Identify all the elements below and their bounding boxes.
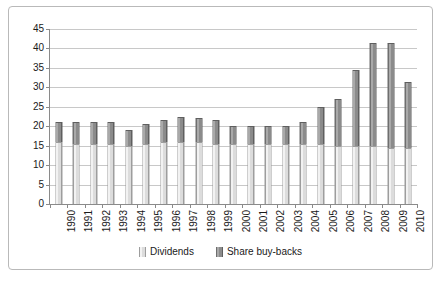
stacked-bar[interactable] [300,122,307,204]
bar-slot [155,29,172,204]
y-tick-label: 0 [38,199,44,209]
x-tick-mark [155,204,156,208]
bar-segment-dividends[interactable] [387,148,394,204]
bar-segment-share-buybacks[interactable] [282,126,289,144]
x-tick-label: 2004 [311,210,321,232]
bar-segment-dividends[interactable] [143,144,150,204]
bar-slot [85,29,102,204]
stacked-bar[interactable] [317,107,324,204]
stacked-bar[interactable] [247,126,254,204]
chart-frame: 051015202530354045 199019911992199319941… [8,6,433,270]
x-tick-label: 1992 [102,210,112,232]
x-tick-mark [137,204,138,208]
stacked-bar[interactable] [213,120,220,204]
bar-segment-share-buybacks[interactable] [55,122,62,141]
bar-segment-share-buybacks[interactable] [178,117,185,142]
bar-segment-share-buybacks[interactable] [143,124,150,143]
stacked-bar[interactable] [265,126,272,204]
x-tick-label: 2010 [416,210,426,232]
x-tick-mark [85,204,86,208]
bar-segment-dividends[interactable] [247,144,254,204]
x-tick-label: 1990 [67,210,77,232]
stacked-bar[interactable] [370,43,377,204]
bar-segment-dividends[interactable] [405,148,412,204]
stacked-bar[interactable] [143,124,150,204]
x-tick-label: 2001 [259,210,269,232]
stacked-bar[interactable] [90,122,97,204]
x-tick-label: 2002 [276,210,286,232]
bar-segment-dividends[interactable] [370,146,377,204]
x-tick-mark [242,204,243,208]
stacked-bar[interactable] [55,122,62,204]
legend-label: Share buy-backs [227,247,302,257]
stacked-bar[interactable] [352,70,359,204]
stacked-bar[interactable] [108,122,115,204]
bar-slot [365,29,382,204]
bar-segment-dividends[interactable] [73,144,80,204]
bar-segment-share-buybacks[interactable] [247,126,254,144]
bar-segment-share-buybacks[interactable] [195,118,202,141]
x-tick-mark [382,204,383,208]
x-tick-label: 1991 [84,210,94,232]
bar-slot [102,29,119,204]
bar-segment-dividends[interactable] [317,144,324,204]
stacked-bar[interactable] [125,130,132,204]
x-tick-label: 1994 [137,210,147,232]
bar-segment-share-buybacks[interactable] [300,122,307,143]
bar-segment-share-buybacks[interactable] [317,107,324,144]
x-tick-label: 2009 [399,210,409,232]
bar-segment-share-buybacks[interactable] [73,122,80,143]
bar-segment-dividends[interactable] [125,146,132,204]
stacked-bar[interactable] [160,120,167,204]
stacked-bar[interactable] [387,43,394,204]
stacked-bar[interactable] [178,117,185,204]
bar-segment-share-buybacks[interactable] [387,43,394,148]
bar-slot [330,29,347,204]
bar-slot [207,29,224,204]
bar-segment-share-buybacks[interactable] [230,126,237,144]
y-tick-label: 35 [33,63,44,73]
bar-segment-share-buybacks[interactable] [160,120,167,141]
y-tick-label: 30 [33,82,44,92]
bar-segment-dividends[interactable] [300,144,307,204]
x-tick-mark [260,204,261,208]
bar-segment-share-buybacks[interactable] [90,122,97,143]
bar-segment-dividends[interactable] [195,142,202,204]
stacked-bar[interactable] [405,82,412,204]
bar-segment-dividends[interactable] [213,144,220,204]
bar-segment-dividends[interactable] [230,144,237,204]
legend-item[interactable]: Share buy-backs [216,247,302,257]
bar-segment-share-buybacks[interactable] [108,122,115,143]
bar-segment-share-buybacks[interactable] [265,126,272,144]
bar-segment-dividends[interactable] [265,144,272,204]
bar-slot [50,29,67,204]
bar-segment-share-buybacks[interactable] [213,120,220,143]
bar-slot [225,29,242,204]
stacked-bar[interactable] [195,118,202,204]
bar-segment-dividends[interactable] [90,144,97,204]
chart-legend: DividendsShare buy-backs [9,247,432,257]
bar-segment-dividends[interactable] [335,146,342,204]
bar-segment-share-buybacks[interactable] [125,130,132,146]
bar-segment-dividends[interactable] [352,146,359,204]
share-buybacks-swatch [216,247,223,257]
x-tick-mark [417,204,418,208]
x-tick-label: 2005 [329,210,339,232]
bar-segment-dividends[interactable] [178,142,185,204]
x-tick-mark [50,204,51,208]
stacked-bar[interactable] [282,126,289,204]
stacked-bar[interactable] [335,99,342,204]
stacked-bar[interactable] [73,122,80,204]
bar-segment-share-buybacks[interactable] [335,99,342,146]
bar-segment-share-buybacks[interactable] [405,82,412,148]
bar-segment-dividends[interactable] [108,144,115,204]
legend-item[interactable]: Dividends [139,247,194,257]
bar-segment-share-buybacks[interactable] [370,43,377,146]
x-tick-mark [172,204,173,208]
bar-segment-share-buybacks[interactable] [352,70,359,146]
bar-slot [295,29,312,204]
stacked-bar[interactable] [230,126,237,204]
bar-segment-dividends[interactable] [160,142,167,204]
bar-segment-dividends[interactable] [55,142,62,204]
bar-segment-dividends[interactable] [282,144,289,204]
